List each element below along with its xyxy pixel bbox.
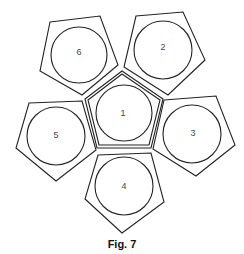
label-2: 2 [160,42,165,52]
label-3: 3 [190,128,195,138]
cell-3: 3 [153,96,235,176]
figure-caption: Fig. 7 [0,238,244,250]
label-4: 4 [121,181,126,191]
label-1: 1 [120,108,125,118]
pentagon-5 [16,101,96,181]
cell-2: 2 [124,12,205,95]
pentagon-diagram: 1 6 2 5 3 4 [0,0,244,254]
pentagon-2 [124,12,205,95]
label-6: 6 [76,47,81,57]
cell-5: 5 [16,101,96,181]
cell-4: 4 [85,153,164,233]
label-5: 5 [53,130,58,140]
